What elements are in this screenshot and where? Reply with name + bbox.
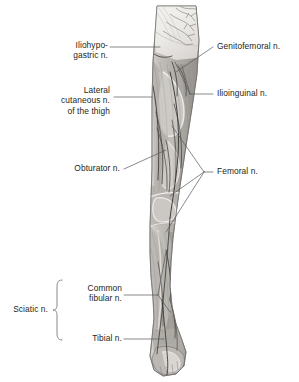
label-ilioinguinal-nerve: Ilioinguinal n. bbox=[217, 88, 299, 98]
label-common-fibular-nerve: Common fibular n. bbox=[60, 283, 122, 304]
limb-illustration bbox=[148, 0, 204, 376]
label-genitofemoral-nerve: Genitofemoral n. bbox=[217, 41, 299, 51]
label-iliohypogastric-nerve: Iliohypo- gastric n. bbox=[18, 40, 108, 61]
label-lateral-cutaneous-nerve-of-thigh: Lateral cutaneous n. of the thigh bbox=[10, 85, 110, 116]
label-obturator-nerve: Obturator n. bbox=[40, 163, 120, 173]
label-tibial-nerve: Tibial n. bbox=[60, 333, 122, 343]
label-sciatic-nerve: Sciatic n. bbox=[0, 304, 48, 314]
label-femoral-nerve: Femoral n. bbox=[217, 166, 297, 176]
